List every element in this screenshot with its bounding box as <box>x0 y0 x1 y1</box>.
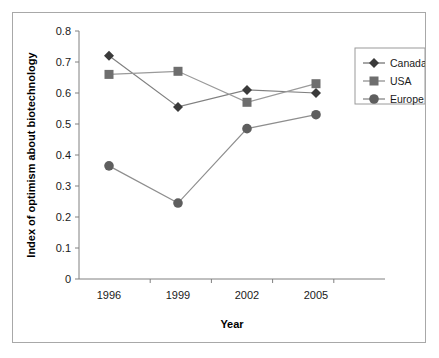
x-axis-title: Year <box>220 318 244 330</box>
x-axis-tick-label: 2005 <box>304 289 328 301</box>
x-axis-tick-label: 2002 <box>235 289 259 301</box>
x-axis-tick-labels: 1996199920022005 <box>97 289 328 301</box>
data-point-europe-1999 <box>173 198 183 208</box>
data-point-usa-1996 <box>105 70 114 79</box>
data-point-canada-1996 <box>104 51 114 61</box>
data-point-europe-2002 <box>242 124 252 134</box>
y-axis-tick-label: 0.7 <box>56 56 71 68</box>
data-point-usa-1999 <box>174 67 183 76</box>
y-axis-tick-label: 0.2 <box>56 211 71 223</box>
y-axis-tick-label: 0.3 <box>56 180 71 192</box>
series-line-usa <box>109 71 316 102</box>
series-line-europe <box>109 115 316 203</box>
y-axis-tick-label: 0.4 <box>56 149 71 161</box>
chart-legend: CanadaUSAEurope <box>355 48 425 105</box>
x-axis-ticks <box>150 279 334 283</box>
y-axis-title: Index of optimism about biotechnology <box>25 51 37 257</box>
y-axis-ticks <box>75 31 79 279</box>
y-axis-tick-label: 0.1 <box>56 242 71 254</box>
data-point-canada-2005 <box>311 88 321 98</box>
legend-label-usa: USA <box>390 75 412 87</box>
series-lines <box>109 56 316 203</box>
legend-marker-usa <box>370 77 379 86</box>
data-point-canada-2002 <box>242 85 252 95</box>
x-axis-tick-label: 1999 <box>166 289 190 301</box>
series-line-canada <box>109 56 316 107</box>
line-chart-plot: 00.10.20.30.40.50.60.70.8 19961999200220… <box>13 13 425 342</box>
series-markers <box>104 51 321 208</box>
x-axis-tick-label: 1996 <box>97 289 121 301</box>
data-point-canada-1999 <box>173 102 183 112</box>
legend-label-canada: Canada <box>390 57 425 69</box>
y-axis-tick-label: 0.5 <box>56 118 71 130</box>
legend-marker-europe <box>369 94 379 104</box>
data-point-europe-1996 <box>104 161 114 171</box>
data-point-usa-2005 <box>312 79 321 88</box>
y-axis-tick-label: 0.6 <box>56 87 71 99</box>
chart-frame: 00.10.20.30.40.50.60.70.8 19961999200220… <box>12 12 426 343</box>
legend-label-europe: Europe <box>390 93 424 105</box>
chart-figure: 00.10.20.30.40.50.60.70.8 19961999200220… <box>0 0 439 358</box>
y-axis-tick-labels: 00.10.20.30.40.50.60.70.8 <box>56 25 71 285</box>
y-axis-tick-label: 0.8 <box>56 25 71 37</box>
y-axis-tick-label: 0 <box>65 273 71 285</box>
data-point-europe-2005 <box>311 110 321 120</box>
data-point-usa-2002 <box>243 98 252 107</box>
